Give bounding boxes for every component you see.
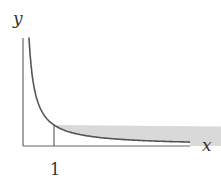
x-tick-label-1: 1 (50, 160, 60, 179)
y-axis-label: y (12, 8, 23, 28)
shaded-area (54, 125, 221, 146)
graph-figure: y x 1 (0, 0, 221, 181)
x-axis-label: x (202, 135, 212, 155)
